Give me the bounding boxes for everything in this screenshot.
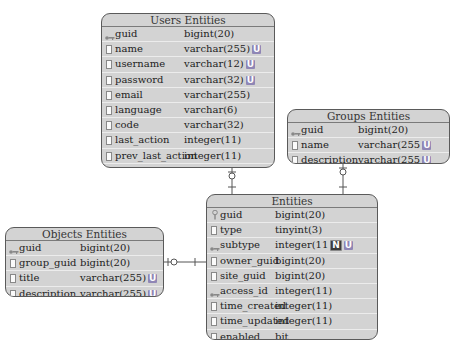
column-type: bigint(20) — [275, 269, 325, 283]
column-row[interactable]: time_updatedinteger(11) — [207, 314, 377, 329]
column-icon — [10, 259, 16, 268]
column-icon — [211, 226, 217, 235]
column-row[interactable]: guidbigint(20) — [288, 123, 449, 138]
column-type-text: bigint(20) — [275, 270, 325, 281]
column-row[interactable]: descriptionvarchar(255U — [288, 153, 449, 164]
objects-entity-table[interactable]: Objects Entities guidbigint(20)group_gui… — [5, 227, 164, 297]
column-type: bit — [275, 330, 289, 341]
column-name: site_guid — [220, 269, 266, 283]
unique-badge-icon: U — [246, 76, 255, 85]
column-icon — [292, 141, 298, 150]
column-row[interactable]: last_logininteger(11) — [102, 164, 274, 168]
column-type: varchar(255)U — [80, 287, 157, 297]
column-type-text: integer(11) — [184, 134, 241, 145]
column-icon — [211, 317, 217, 326]
unique-badge-icon: U — [422, 156, 431, 164]
column-row[interactable]: subtypeinteger(11NU — [207, 238, 377, 253]
column-type: bigint(20) — [275, 254, 325, 268]
column-name: description — [301, 153, 358, 164]
column-row[interactable]: namevarchar(255)U — [102, 42, 274, 57]
column-icon — [10, 274, 16, 283]
column-name: type — [220, 223, 242, 237]
column-type: integer(11) — [184, 149, 241, 163]
column-row[interactable]: guidbigint(20) — [6, 241, 163, 256]
column-row[interactable]: access_idinteger(11) — [207, 284, 377, 299]
column-type: bigint(20) — [358, 123, 408, 137]
column-type: integer(11) — [275, 284, 332, 298]
column-icon — [106, 76, 112, 85]
key-icon — [291, 127, 301, 133]
column-name: name — [115, 42, 143, 56]
column-row[interactable]: usernamevarchar(12)U — [102, 57, 274, 72]
column-type-text: integer(11) — [275, 315, 332, 326]
column-type-text: integer(11) — [275, 300, 332, 311]
column-icon — [292, 156, 298, 164]
key-icon — [210, 242, 220, 248]
column-icon — [211, 272, 217, 281]
column-list: guidbigint(20)namevarchar(255)Uusernamev… — [102, 27, 274, 168]
column-row[interactable]: codevarchar(32) — [102, 118, 274, 133]
column-row[interactable]: titlevarchar(255)U — [6, 271, 163, 286]
column-type-text: integer(11) — [184, 165, 241, 168]
column-type-text: varchar(255) — [184, 43, 250, 54]
not-null-badge-icon: N — [330, 240, 342, 251]
column-name: code — [115, 118, 139, 132]
column-row[interactable]: typetinyint(3) — [207, 223, 377, 238]
unique-badge-icon: U — [344, 241, 353, 250]
table-title: Entities — [207, 195, 377, 208]
column-row[interactable]: group_guidbigint(20) — [6, 256, 163, 271]
column-type-text: integer(11 — [275, 239, 328, 250]
column-icon — [211, 333, 217, 341]
column-type: varchar(255U — [358, 138, 431, 152]
column-name: owner_guid — [220, 254, 279, 268]
column-type: varchar(255) — [184, 88, 250, 102]
column-icon — [106, 106, 112, 115]
column-type: varchar(32)U — [184, 73, 255, 87]
unique-badge-icon: U — [422, 141, 431, 150]
column-type: varchar(12)U — [184, 57, 255, 71]
column-icon — [106, 136, 112, 145]
column-type: integer(11) — [184, 133, 241, 147]
column-type-text: integer(11) — [275, 285, 332, 296]
column-row[interactable]: passwordvarchar(32)U — [102, 73, 274, 88]
table-title: Groups Entities — [288, 110, 449, 123]
column-list: guidbigint(20)group_guidbigint(20)titlev… — [6, 241, 163, 297]
column-type-text: tinyint(3) — [275, 224, 322, 235]
column-name: description — [19, 287, 76, 297]
users-entity-table[interactable]: Users Entities guidbigint(20)namevarchar… — [101, 13, 275, 168]
column-name: guid — [301, 123, 323, 137]
column-row[interactable]: site_guidbigint(20) — [207, 269, 377, 284]
key-icon — [105, 31, 115, 37]
unique-badge-icon: U — [246, 60, 255, 69]
column-list: guidbigint(20)namevarchar(255Udescriptio… — [288, 123, 449, 164]
column-type-text: varchar(255) — [80, 288, 146, 297]
column-row[interactable]: descriptionvarchar(255)U — [6, 287, 163, 297]
column-type-text: varchar(255) — [80, 272, 146, 283]
column-row[interactable]: owner_guidbigint(20) — [207, 254, 377, 269]
column-icon — [106, 60, 112, 69]
column-row[interactable]: guidbigint(20) — [102, 27, 274, 42]
entities-table[interactable]: Entities guidbigint(20)typetinyint(3)sub… — [206, 194, 378, 340]
column-type-text: integer(11) — [184, 150, 241, 161]
column-name: title — [19, 271, 39, 285]
column-name: name — [301, 138, 329, 152]
unique-badge-icon: U — [252, 45, 261, 54]
groups-entity-table[interactable]: Groups Entities guidbigint(20)namevarcha… — [287, 109, 450, 164]
column-row[interactable]: prev_last_actioninteger(11) — [102, 149, 274, 164]
column-type: bigint(20) — [80, 256, 130, 270]
column-row[interactable]: languagevarchar(6) — [102, 103, 274, 118]
column-name: subtype — [220, 238, 260, 252]
column-row[interactable]: guidbigint(20) — [207, 208, 377, 223]
column-row[interactable]: time_createdinteger(11) — [207, 299, 377, 314]
column-type-text: varchar(6) — [184, 104, 237, 115]
column-name: language — [115, 103, 162, 117]
column-row[interactable]: last_actioninteger(11) — [102, 133, 274, 148]
column-row[interactable]: enabledbit — [207, 330, 377, 341]
column-type-text: varchar(32) — [184, 74, 244, 85]
column-type-text: bigint(20) — [275, 255, 325, 266]
column-row[interactable]: namevarchar(255U — [288, 138, 449, 153]
column-row[interactable]: emailvarchar(255) — [102, 88, 274, 103]
column-type: varchar(255)U — [80, 271, 157, 285]
column-type: integer(11NU — [275, 238, 353, 252]
column-type: bigint(20) — [80, 241, 130, 255]
